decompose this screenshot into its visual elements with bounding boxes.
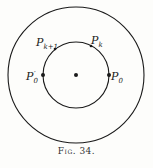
label-pk: Pk: [90, 34, 103, 49]
figure-caption: Fig. 34.: [0, 146, 153, 156]
label-p0-prime: P0′: [25, 70, 38, 85]
circles-diagram: P0 P0′ Pk Pk+1: [0, 0, 153, 168]
label-pk1: Pk+1: [35, 36, 58, 51]
label-p0: P0: [110, 70, 123, 85]
point-p0-prime: [41, 73, 45, 77]
center-point: [74, 73, 78, 77]
